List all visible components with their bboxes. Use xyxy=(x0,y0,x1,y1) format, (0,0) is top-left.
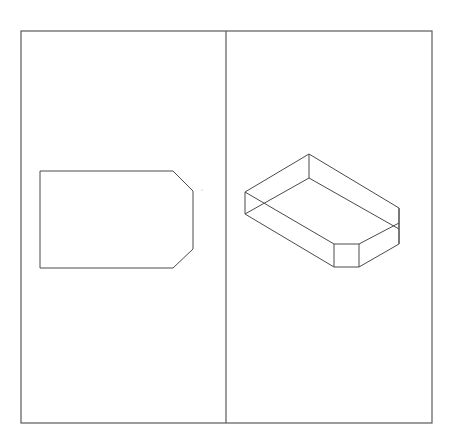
chamfered-rectangle-2d xyxy=(40,171,193,268)
drawing-canvas xyxy=(0,0,454,444)
isometric-view-panel xyxy=(245,154,399,267)
2d-view-panel xyxy=(40,171,203,268)
stray-dot xyxy=(201,189,202,190)
isometric-hidden-back-edges xyxy=(245,178,399,229)
isometric-bottom-front-edge xyxy=(245,214,399,267)
isometric-top-face xyxy=(245,154,399,244)
